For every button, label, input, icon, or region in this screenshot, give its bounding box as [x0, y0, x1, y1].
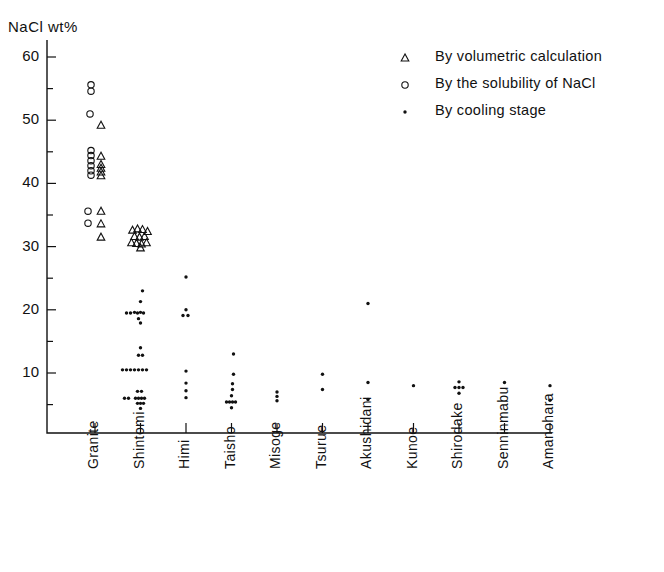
marker-filled-dot — [137, 368, 140, 371]
marker-filled-dot — [230, 406, 233, 409]
marker-filled-dot — [230, 394, 233, 397]
marker-open-circle — [88, 82, 94, 88]
marker-filled-dot — [133, 368, 136, 371]
x-tick-label-amanohara: Amanohara — [540, 393, 556, 469]
marker-filled-dot — [142, 402, 145, 405]
marker-filled-dot — [137, 354, 140, 357]
y-tick-label: 40 — [3, 173, 39, 190]
x-tick-label-tsurue: Tsurue — [313, 425, 329, 469]
series-group-0 — [97, 121, 151, 251]
marker-filled-dot — [123, 397, 126, 400]
marker-filled-dot — [136, 402, 139, 405]
marker-open-circle — [87, 111, 93, 117]
marker-filled-dot — [321, 373, 324, 376]
marker-filled-dot — [366, 302, 369, 305]
axis-lines — [47, 40, 552, 433]
legend-label: By cooling stage — [435, 102, 546, 118]
marker-open-circle — [88, 88, 94, 94]
marker-filled-dot — [275, 399, 278, 402]
marker-open-triangle — [97, 233, 105, 240]
marker-open-triangle — [97, 121, 105, 128]
x-tick-label-kunoe: Kunoe — [404, 427, 420, 469]
marker-open-triangle — [401, 54, 409, 61]
y-tick-label: 10 — [3, 363, 39, 380]
series-group-1 — [85, 82, 94, 227]
marker-filled-dot — [184, 381, 187, 384]
marker-filled-dot — [139, 321, 142, 324]
marker-filled-dot — [139, 402, 142, 405]
marker-open-circle — [402, 82, 408, 88]
marker-open-triangle — [97, 220, 105, 227]
marker-filled-dot — [141, 354, 144, 357]
marker-filled-dot — [548, 384, 551, 387]
marker-filled-dot — [137, 317, 140, 320]
legend-marker-open-circle — [397, 77, 413, 93]
marker-filled-dot — [127, 397, 130, 400]
legend-marker-open-triangle — [397, 50, 413, 66]
marker-filled-dot — [139, 311, 142, 314]
marker-filled-dot — [184, 396, 187, 399]
marker-filled-dot — [453, 386, 456, 389]
marker-filled-dot — [140, 390, 143, 393]
marker-filled-dot — [184, 275, 187, 278]
marker-filled-dot — [134, 397, 137, 400]
marker-filled-dot — [321, 388, 324, 391]
marker-filled-dot — [184, 369, 187, 372]
marker-filled-dot — [234, 400, 237, 403]
marker-open-circle — [85, 220, 91, 226]
scatter-chart-figure: NaCl wt% 102030405060 GraniteShintomiHim… — [0, 0, 664, 572]
marker-filled-dot — [275, 390, 278, 393]
y-tick-label: 30 — [3, 237, 39, 254]
marker-open-triangle — [141, 232, 149, 239]
marker-filled-dot — [225, 400, 228, 403]
marker-filled-dot — [125, 311, 128, 314]
x-tick-label-granite: Granite — [85, 420, 101, 469]
marker-filled-dot — [503, 381, 506, 384]
marker-filled-dot — [461, 386, 464, 389]
marker-filled-dot — [457, 386, 460, 389]
marker-filled-dot — [141, 368, 144, 371]
marker-filled-dot — [139, 300, 142, 303]
marker-filled-dot — [125, 368, 128, 371]
marker-filled-dot — [232, 352, 235, 355]
marker-filled-dot — [133, 311, 136, 314]
marker-filled-dot — [143, 397, 146, 400]
y-tick-label: 50 — [3, 110, 39, 127]
x-tick-label-akushidani: Akushidani — [358, 397, 374, 470]
marker-filled-dot — [403, 110, 406, 113]
marker-filled-dot — [457, 380, 460, 383]
marker-filled-dot — [231, 382, 234, 385]
marker-filled-dot — [129, 368, 132, 371]
x-tick-label-himi: Himi — [176, 439, 192, 469]
x-tick-label-shirodake: Shirodake — [449, 402, 465, 469]
marker-filled-dot — [140, 397, 143, 400]
marker-open-circle — [85, 208, 91, 214]
marker-filled-dot — [457, 392, 460, 395]
x-tick-label-senninmabu: Senninmabu — [495, 386, 511, 469]
marker-filled-dot — [412, 384, 415, 387]
legend-marker-filled-dot — [397, 104, 413, 120]
marker-filled-dot — [121, 368, 124, 371]
marker-filled-dot — [186, 314, 189, 317]
marker-filled-dot — [145, 368, 148, 371]
marker-open-triangle — [97, 152, 105, 159]
x-tick-label-taisho: Taisho — [222, 426, 238, 469]
x-tick-label-shintomi: Shintomi — [131, 411, 147, 469]
marker-filled-dot — [181, 314, 184, 317]
marker-filled-dot — [137, 397, 140, 400]
marker-filled-dot — [136, 311, 139, 314]
marker-filled-dot — [142, 311, 145, 314]
x-tick-label-misoge: Misoge — [267, 421, 283, 469]
marker-open-triangle — [97, 207, 105, 214]
marker-filled-dot — [232, 373, 235, 376]
marker-filled-dot — [129, 311, 132, 314]
marker-filled-dot — [139, 346, 142, 349]
marker-filled-dot — [228, 400, 231, 403]
marker-filled-dot — [184, 389, 187, 392]
legend-label: By the solubility of NaCl — [435, 75, 596, 91]
marker-filled-dot — [136, 390, 139, 393]
marker-filled-dot — [139, 407, 142, 410]
legend-label: By volumetric calculation — [435, 48, 602, 64]
y-tick-label: 60 — [3, 47, 39, 64]
marker-filled-dot — [231, 400, 234, 403]
